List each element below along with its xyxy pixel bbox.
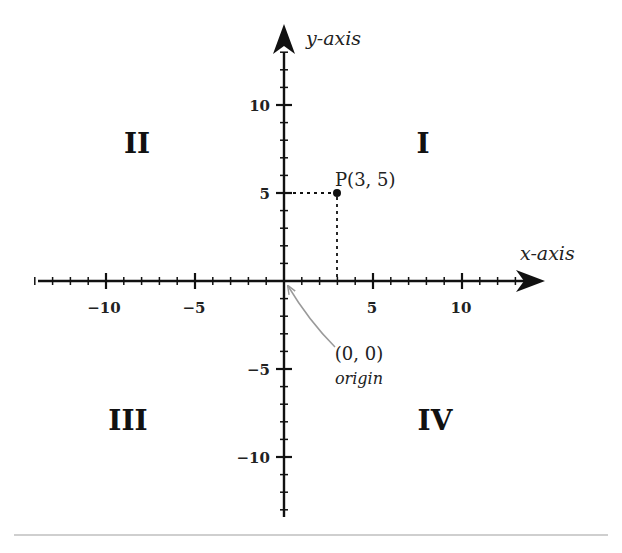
quadrant-label-III: III <box>108 404 147 437</box>
point-projection-lines <box>286 193 337 279</box>
point-p-marker <box>333 189 341 197</box>
x-tick-label: −5 <box>182 299 205 317</box>
bottom-divider <box>14 534 608 536</box>
y-axis-arrow-icon <box>273 24 295 54</box>
x-tick-label: 10 <box>451 299 472 317</box>
x-tick-label: 5 <box>367 299 377 317</box>
y-tick-label: 10 <box>249 97 270 115</box>
origin-caption: origin <box>335 369 383 388</box>
y-tick-label: −5 <box>247 361 270 379</box>
x-tick-label: −10 <box>87 299 120 317</box>
coordinate-plane: y-axis x-axis −10 −5 5 10 10 5 −5 −10 I … <box>0 0 622 553</box>
origin-pointer-arrow-icon <box>288 286 335 347</box>
quadrant-label-I: I <box>416 127 429 160</box>
origin-coords-label: (0, 0) <box>335 343 383 364</box>
x-axis-title: x-axis <box>520 242 575 264</box>
point-p-label: P(3, 5) <box>335 169 396 190</box>
y-tick-label: 5 <box>260 185 270 203</box>
x-axis <box>38 270 545 292</box>
y-axis <box>273 24 295 517</box>
y-axis-title: y-axis <box>305 27 361 49</box>
quadrant-label-II: II <box>124 127 150 160</box>
quadrant-label-IV: IV <box>418 404 454 437</box>
y-tick-label: −10 <box>237 449 270 467</box>
